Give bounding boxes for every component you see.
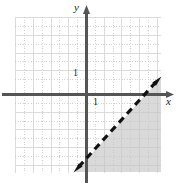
y-axis-label: y	[74, 2, 79, 13]
y-axis-tick-label-1: 1	[73, 68, 78, 78]
x-axis-tick-label-1: 1	[93, 97, 98, 107]
coordinate-plane-figure: y x 1 1	[0, 0, 177, 187]
x-axis-label: x	[166, 96, 171, 107]
y-axis-arrowhead	[83, 5, 90, 14]
graph-canvas	[0, 0, 177, 187]
